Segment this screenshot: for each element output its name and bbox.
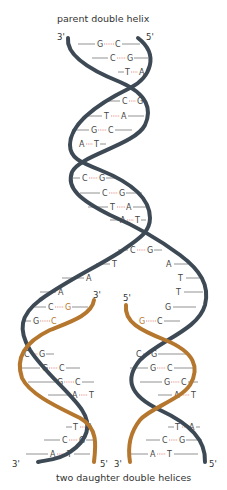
base-right: G — [65, 303, 71, 312]
base-right: A — [166, 260, 172, 269]
base-right: C — [108, 126, 114, 135]
base-right: G — [127, 54, 133, 63]
base-left: G — [91, 126, 97, 135]
right-daughter-3prime-label: 3' — [114, 459, 122, 469]
base-left: G — [139, 317, 145, 326]
title-daughter-double-helices: two daughter double helices — [56, 472, 191, 483]
left-daughter-5prime-label: 5' — [100, 459, 108, 469]
base-right: A — [126, 203, 132, 212]
base-right: T — [134, 216, 140, 225]
base-left: C — [62, 436, 68, 445]
left-daughter-3prime-label: 3' — [12, 459, 20, 469]
base-right: T — [175, 288, 181, 297]
parent-3prime-label: 3' — [57, 32, 65, 42]
base-right: T — [177, 274, 183, 283]
base-right: C — [59, 364, 65, 373]
base-right: G — [179, 436, 185, 445]
base-right: T — [166, 450, 172, 459]
base-pair: G C — [78, 40, 140, 49]
base-left: C — [82, 174, 88, 183]
base-left: G — [164, 378, 170, 387]
parent-5prime-label: 5' — [146, 32, 154, 42]
base-left: A — [150, 450, 156, 459]
right-daughter-5prime-label: 5' — [209, 459, 217, 469]
base-right: A — [121, 112, 127, 121]
base-pair: C G — [92, 54, 148, 63]
base-right: G — [39, 350, 45, 359]
base-left: C — [122, 97, 128, 106]
base-left: C — [110, 54, 116, 63]
base-left: C — [102, 189, 108, 198]
base-right: C — [167, 364, 173, 373]
base-right: G — [147, 246, 153, 255]
base-right: C — [51, 317, 57, 326]
base-pair: T A — [118, 68, 145, 77]
fork-unpaired-right: A T T — [166, 260, 203, 297]
base-right: G — [99, 174, 105, 183]
base-left: G — [150, 364, 156, 373]
base-left: G — [97, 40, 103, 49]
base-pair: T A — [84, 112, 144, 121]
base-left: T — [109, 203, 115, 212]
base-left: T — [72, 423, 78, 432]
base-left: T — [124, 68, 130, 77]
base-pair: A T — [79, 140, 106, 149]
base-left: T — [174, 423, 180, 432]
dna-replication-diagram: parent double helix two daughter double … — [0, 0, 227, 490]
base-right: C — [181, 378, 187, 387]
base-right: T — [88, 391, 94, 400]
title-parent-double-helix: parent double helix — [57, 13, 150, 24]
base-pair: G C — [72, 126, 132, 135]
base-right: T — [190, 391, 196, 400]
base-right: T — [93, 140, 99, 149]
base-left: G — [165, 303, 171, 312]
base-right: C — [115, 40, 121, 49]
base-right: G — [119, 189, 125, 198]
base-left: A — [86, 274, 92, 283]
base-right: C — [75, 378, 81, 387]
base-left: C — [48, 303, 54, 312]
base-left: G — [33, 317, 39, 326]
base-left: C — [130, 246, 136, 255]
base-right: C — [157, 317, 163, 326]
base-left: T — [103, 112, 109, 121]
base-left: A — [79, 140, 85, 149]
base-left: T — [111, 260, 117, 269]
fork-right-new-5prime-label: 5' — [123, 293, 131, 303]
base-left: C — [162, 436, 168, 445]
